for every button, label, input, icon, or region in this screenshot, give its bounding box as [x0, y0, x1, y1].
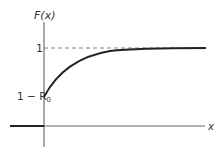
x-axis-label: x: [207, 121, 214, 132]
cdf-curve: [44, 48, 206, 97]
cdf-chart: F(x) 1 1 − R0 x: [0, 0, 221, 153]
y-tick-label-1-minus-r0: 1 − R0: [17, 90, 51, 104]
y-axis-label: F(x): [34, 9, 55, 22]
chart-svg: F(x) 1 1 − R0 x: [0, 0, 221, 153]
y-tick-label-1: 1: [36, 42, 43, 55]
